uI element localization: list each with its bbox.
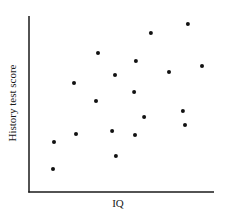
data-point	[142, 115, 146, 119]
data-point	[186, 22, 190, 26]
scatter-chart: History test score IQ	[0, 0, 229, 213]
data-point	[72, 81, 76, 85]
plot-area	[0, 0, 229, 213]
data-points	[51, 22, 204, 171]
data-point	[167, 70, 171, 74]
data-point	[132, 90, 136, 94]
data-point	[52, 140, 56, 144]
data-point	[149, 31, 153, 35]
data-point	[74, 132, 78, 136]
data-point	[133, 133, 137, 137]
data-point	[51, 167, 55, 171]
data-point	[200, 64, 204, 68]
data-point	[113, 73, 117, 77]
data-point	[181, 109, 185, 113]
data-point	[94, 99, 98, 103]
data-point	[110, 129, 114, 133]
data-point	[114, 154, 118, 158]
data-point	[134, 59, 138, 63]
x-axis-label: IQ	[112, 197, 124, 209]
data-point	[96, 51, 100, 55]
data-point	[183, 123, 187, 127]
y-axis-label: History test score	[6, 65, 18, 142]
